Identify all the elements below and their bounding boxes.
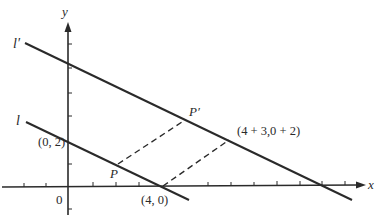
x-axis-arrow-icon	[356, 182, 366, 189]
y-axis-label: y	[60, 4, 68, 19]
point-p-prime-label: P′	[188, 104, 200, 119]
line-l-label: l	[16, 113, 20, 128]
x-axis	[2, 181, 366, 189]
translation-segment-p	[118, 120, 185, 164]
y-intercept-label: (0, 2)	[38, 135, 65, 149]
y-axis-arrow-icon	[65, 22, 72, 32]
origin-label: 0	[56, 192, 63, 207]
line-l-prime	[25, 43, 352, 200]
translated-point-label: (4 + 3,0 + 2)	[237, 124, 300, 138]
translation-diagram: y x 0 l′ l (0, 2) (4, 0) (4 + 3,0 + 2) P…	[0, 0, 375, 222]
line-l-prime-label: l′	[13, 36, 21, 51]
point-p-label: P	[109, 166, 118, 181]
x-intercept-label: (4, 0)	[141, 193, 168, 207]
x-axis-label: x	[367, 177, 374, 192]
translation-segment-intercept	[163, 140, 229, 186]
